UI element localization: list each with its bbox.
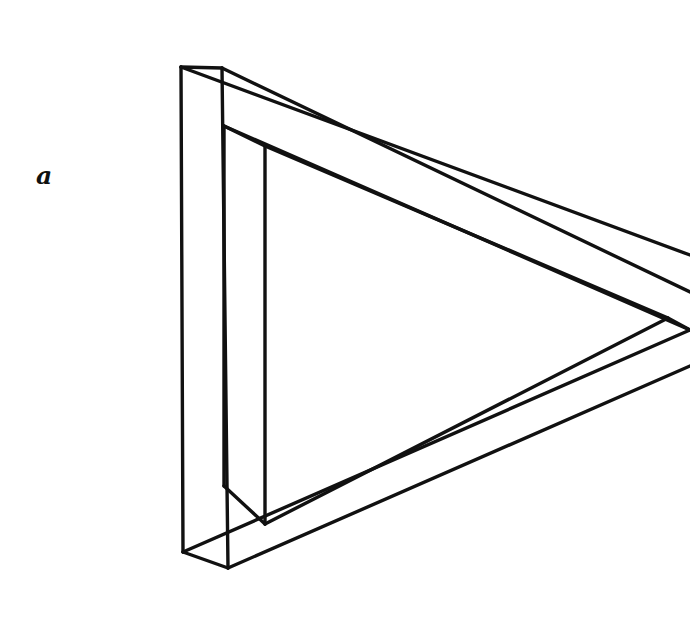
left-beam-inner-side-face	[224, 126, 265, 524]
figure-label: a	[36, 156, 76, 196]
isometric-triangle-drawing	[0, 0, 690, 642]
left-beam-side-face	[181, 67, 228, 568]
left-bar-outer-back-vertical	[181, 67, 183, 552]
page-background	[0, 0, 690, 642]
top-left-outer-corner-connector	[181, 67, 222, 68]
